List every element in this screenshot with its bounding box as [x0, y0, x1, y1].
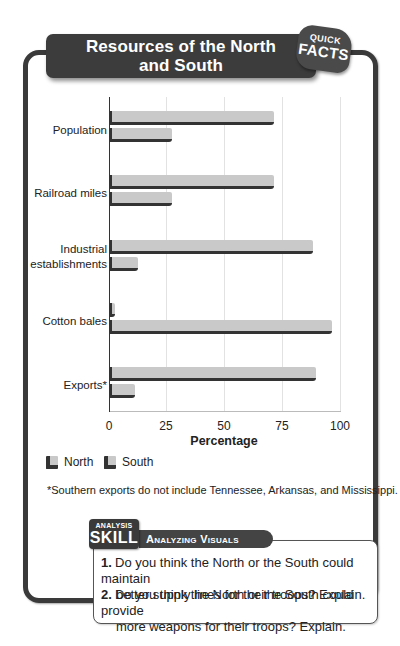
- legend-swatch-south-icon: [104, 456, 116, 469]
- category-label-industrial-line2: establishments: [7, 257, 107, 272]
- bar-north-cotton-bales: [110, 303, 115, 317]
- x-tick-50: 50: [204, 419, 244, 433]
- x-axis-title: Percentage: [164, 434, 284, 448]
- x-tick-25: 25: [146, 419, 186, 433]
- question-2-line-1: Do you think the North or the South coul…: [101, 587, 353, 618]
- legend-label-north: North: [64, 455, 93, 469]
- chart-footnote: *Southern exports do not include Tenness…: [47, 484, 398, 496]
- bar-south-exports: [110, 384, 135, 398]
- gridline-25: [166, 97, 167, 412]
- chart-title-banner: Resources of the North and South: [46, 34, 316, 78]
- legend-item-south: South: [104, 455, 153, 469]
- gridline-100: [340, 97, 341, 412]
- bar-north-population: [110, 111, 274, 125]
- x-tick-100: 100: [320, 419, 360, 433]
- y-axis-line: [109, 97, 110, 412]
- x-tick-75: 75: [262, 419, 302, 433]
- gridline-75: [282, 97, 283, 412]
- category-label-exports: Exports*: [7, 378, 107, 393]
- legend-swatch-north-icon: [46, 456, 58, 469]
- question-2: 2.Do you think the North or the South co…: [101, 587, 376, 635]
- legend-item-north: North: [46, 455, 93, 469]
- bar-south-industrial-establishments: [110, 257, 138, 271]
- question-2-line-2: more weapons for their troops? Explain.: [101, 619, 376, 635]
- category-label-railroad-miles: Railroad miles: [7, 186, 107, 201]
- question-2-number: 2.: [101, 587, 115, 603]
- analyzing-visuals-title: Analyzing Visuals: [139, 530, 273, 548]
- analysis-skill-tag: ANALYSIS SKILL: [89, 519, 139, 549]
- legend-label-south: South: [122, 455, 153, 469]
- bar-south-cotton-bales: [110, 320, 332, 334]
- category-label-cotton-bales: Cotton bales: [7, 314, 107, 329]
- bar-north-railroad-miles: [110, 175, 274, 189]
- question-1-line-1: Do you think the North or the South coul…: [101, 555, 353, 586]
- question-1-number: 1.: [101, 555, 115, 571]
- chart-title-line-1: Resources of the North: [46, 37, 316, 56]
- bar-south-population: [110, 128, 172, 142]
- bar-north-industrial-establishments: [110, 240, 313, 254]
- gridline-50: [224, 97, 225, 412]
- bar-chart-plot-area: [109, 97, 341, 412]
- bar-south-railroad-miles: [110, 192, 172, 206]
- skill-tag-label: SKILL: [89, 530, 139, 546]
- category-label-industrial-line1: Industrial: [7, 242, 107, 257]
- x-axis-line: [109, 411, 341, 412]
- category-label-population: Population: [7, 123, 107, 138]
- chart-title-line-2: and South: [46, 56, 316, 75]
- bar-north-exports: [110, 367, 316, 381]
- x-tick-0: 0: [89, 419, 129, 433]
- quick-facts-badge: QUICK FACTS: [294, 23, 354, 74]
